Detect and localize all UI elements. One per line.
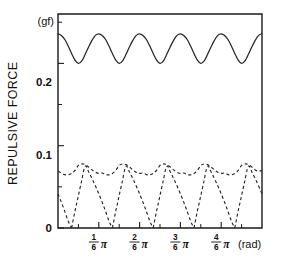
y-axis-ticks xyxy=(58,22,64,228)
y-axis-title: REPULSIVE FORCE xyxy=(6,62,20,185)
x-tick-fraction-numerator-0: 1 xyxy=(92,233,97,242)
x-tick-pi-symbol-3: π xyxy=(223,238,230,250)
x-tick-fraction-denominator-1: 6 xyxy=(132,243,137,252)
x-tick-fraction-numerator-1: 2 xyxy=(132,233,137,242)
figure-container: 0 0.1 0.2 (gf) (rad) 16π26π36π46π REPULS… xyxy=(0,0,284,265)
series-2-arc-1 xyxy=(72,166,113,228)
series-0-solid xyxy=(58,34,262,64)
x-axis-unit-label: (rad) xyxy=(238,238,261,250)
x-tick-fraction-denominator-2: 6 xyxy=(173,243,178,252)
x-tick-pi-symbol-0: π xyxy=(101,238,108,250)
repulsive-force-chart: 0 0.1 0.2 (gf) (rad) 16π26π36π46π REPULS… xyxy=(0,0,284,265)
x-tick-fraction-denominator-3: 6 xyxy=(214,243,219,252)
x-axis-ticks xyxy=(78,222,241,228)
y-tick-label-0: 0 xyxy=(46,222,52,234)
series-2-arc-0 xyxy=(58,194,72,228)
series-2-arc-3 xyxy=(153,166,194,228)
x-tick-pi-symbol-2: π xyxy=(182,238,189,250)
y-axis-unit-label: (gf) xyxy=(38,15,55,27)
x-tick-fraction-denominator-0: 6 xyxy=(92,243,97,252)
series-1-dashed xyxy=(58,164,262,175)
y-tick-label-0.2: 0.2 xyxy=(36,76,52,88)
series-2-arc-5 xyxy=(235,166,262,228)
x-axis-tick-labels: 16π26π36π46π xyxy=(89,233,230,252)
x-tick-pi-symbol-1: π xyxy=(142,238,149,250)
data-curves xyxy=(58,34,262,228)
y-tick-label-0.1: 0.1 xyxy=(36,149,53,161)
x-tick-fraction-numerator-3: 4 xyxy=(214,233,219,242)
x-tick-fraction-numerator-2: 3 xyxy=(173,233,178,242)
